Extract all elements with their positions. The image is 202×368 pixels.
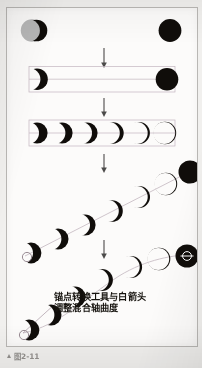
figure-caption-text: 图2-11 <box>14 350 40 361</box>
blend-step-6 <box>154 122 176 144</box>
blend-step-2 <box>51 122 72 143</box>
diagonal-step-2 <box>48 229 69 250</box>
step2-group <box>26 67 178 93</box>
curved-step-5 <box>120 256 142 278</box>
scanned-page: 锚点转换工具与白箭头 调整混合轴曲度 图2-11 <box>0 0 202 368</box>
arrow-step1-to-step2 <box>101 48 107 68</box>
diagonal-step-3 <box>74 214 95 235</box>
blend-bounding-box-straight <box>29 120 175 146</box>
plate-caption-line-2: 调整混合轴曲度 <box>54 302 184 313</box>
curved-step-4 <box>91 269 113 291</box>
arrow-step3-to-step4 <box>101 154 107 173</box>
plate-caption-line-1: 锚点转换工具与白箭头 <box>54 291 184 302</box>
triangle-marker-icon <box>7 354 11 358</box>
curved-step-1 <box>19 320 40 341</box>
blend-step-4 <box>102 122 123 143</box>
solid-disc-right <box>156 68 179 91</box>
diagonal-step-4 <box>101 200 123 222</box>
curved-step-6 <box>148 248 171 271</box>
blend-step-5 <box>128 122 150 144</box>
diagonal-step-7 <box>179 161 198 184</box>
arrow-step2-to-step3 <box>101 98 107 117</box>
figure-caption: 图2-11 <box>7 350 40 361</box>
blend-step-1 <box>26 122 47 143</box>
diagonal-step-6 <box>155 173 177 195</box>
blend-step-3 <box>76 122 97 143</box>
black-crescent-overlay <box>26 20 48 42</box>
black-crescent-left <box>26 68 48 90</box>
step1-group <box>21 19 182 42</box>
selection-bounding-box <box>29 67 175 93</box>
illustration-plate: 锚点转换工具与白箭头 调整混合轴曲度 <box>6 7 198 347</box>
solid-source-disc <box>159 19 182 42</box>
step4-group <box>21 161 197 264</box>
step3-group <box>26 120 176 146</box>
plate-caption: 锚点转换工具与白箭头 调整混合轴曲度 <box>54 291 184 313</box>
arrow-step4-to-step5 <box>101 240 107 259</box>
diagonal-step-5 <box>128 186 150 208</box>
